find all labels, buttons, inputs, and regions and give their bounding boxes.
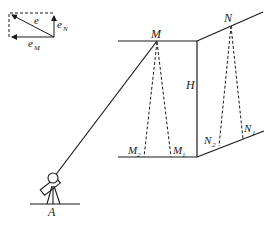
sight-line-A-to-M	[48, 41, 157, 185]
label-N: N	[223, 11, 233, 25]
survey-diagram: e e N e M M N H M 2 M 1 N 2 N 1 A	[0, 0, 269, 226]
vector-e-arrow	[12, 15, 54, 37]
label-N1-sub: 1	[252, 129, 256, 137]
label-eM: e	[28, 37, 33, 49]
theodolite-icon	[30, 173, 80, 204]
tripod-leg-right	[54, 186, 60, 204]
label-N2-sub: 2	[212, 141, 216, 149]
label-H: H	[185, 78, 196, 92]
proj-M-M1	[157, 42, 171, 157]
label-eN-sub: N	[62, 25, 68, 33]
label-M1-sub: 1	[182, 151, 186, 159]
proj-N-N1	[231, 26, 243, 139]
label-M: M	[150, 27, 162, 41]
label-M2-sub: 2	[137, 151, 141, 159]
proj-M-M2	[144, 42, 157, 157]
label-N2: N	[203, 134, 212, 146]
label-N1: N	[243, 122, 252, 134]
instrument-head	[48, 173, 58, 183]
label-e: e	[34, 14, 39, 26]
proj-N-N2	[219, 26, 231, 146]
vector-inset	[9, 13, 54, 37]
label-eN: e	[57, 18, 62, 30]
label-A: A	[47, 205, 56, 219]
label-eM-sub: M	[33, 44, 41, 52]
